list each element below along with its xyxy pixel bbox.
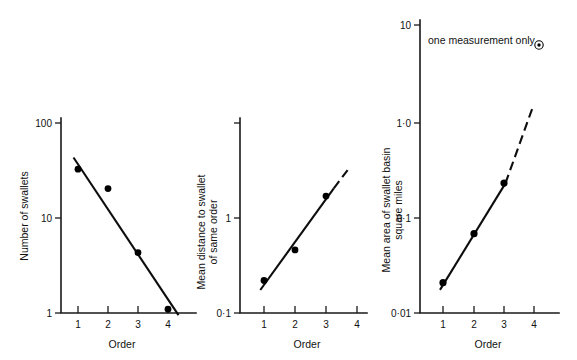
- yaxis-title: Number of swallets: [18, 171, 30, 260]
- figure-root: 100 10 1 1 2 3 4 Order Number of swallet…: [0, 0, 577, 360]
- ytick-label-10: 10: [41, 213, 53, 224]
- data-point: [105, 185, 112, 192]
- xaxis-title: Order: [294, 338, 321, 350]
- circled-dot-icon: [535, 41, 543, 49]
- data-point: [323, 193, 330, 200]
- data-point: [165, 306, 172, 313]
- xtick-label-1: 1: [75, 319, 81, 330]
- ytick-label-0-01: 0·01: [391, 308, 411, 319]
- annotation-label: one measurement only: [428, 34, 536, 46]
- chart-panel-mean-area: 10 1·0 0·1 0·01 1 2 3 4 one measurement …: [380, 0, 577, 360]
- xtick-label-2: 2: [105, 319, 111, 330]
- data-point: [470, 230, 477, 237]
- xaxis-title: Order: [475, 338, 502, 350]
- fit-line-left: [74, 158, 179, 316]
- axis-lines-right: [420, 20, 559, 313]
- ytick-label-1: 1: [46, 308, 52, 319]
- xaxis-title: Order: [109, 338, 136, 350]
- xtick-label-4: 4: [531, 319, 537, 330]
- axis-lines-left: [61, 118, 196, 313]
- xtick-label-2: 2: [471, 319, 477, 330]
- data-point: [261, 277, 268, 284]
- yaxis-title-line1: Mean area of swallet basin: [380, 147, 392, 272]
- chart-panel-number-of-swallets: 100 10 1 1 2 3 4 Order Number of swallet…: [0, 0, 200, 360]
- chart-panel-mean-distance: 1 0·1 1 2 3 4 Order Mean distance to swa…: [190, 0, 385, 360]
- xtick-label-3: 3: [323, 319, 329, 330]
- yaxis-title-line1: Mean distance to swallet: [195, 174, 207, 289]
- yaxis-title-line2: square miles: [392, 180, 404, 240]
- yaxis-title-line2: of same order: [207, 199, 219, 264]
- xtick-label-3: 3: [135, 319, 141, 330]
- panel-left-svg: 100 10 1 1 2 3 4 Order Number of swallet…: [0, 0, 200, 360]
- xtick-label-1: 1: [440, 319, 446, 330]
- xtick-label-2: 2: [292, 319, 298, 330]
- xtick-label-4: 4: [354, 319, 360, 330]
- data-point: [439, 279, 446, 286]
- fit-line-dashed-middle: [334, 168, 350, 189]
- ytick-label-1: 1: [225, 213, 231, 224]
- xtick-label-4: 4: [165, 319, 171, 330]
- ytick-label-1-0: 1·0: [397, 118, 412, 129]
- fit-line-dashed-right: [505, 108, 532, 184]
- ytick-label-10: 10: [400, 20, 412, 31]
- data-point: [75, 166, 82, 173]
- data-point: [135, 249, 142, 256]
- panel-right-svg: 10 1·0 0·1 0·01 1 2 3 4 one measurement …: [380, 0, 577, 360]
- ytick-label-100: 100: [35, 118, 52, 129]
- ytick-label-0-1: 0·1: [217, 308, 232, 319]
- axis-lines-middle: [240, 118, 367, 313]
- panel-middle-svg: 1 0·1 1 2 3 4 Order Mean distance to swa…: [190, 0, 385, 360]
- xtick-label-1: 1: [261, 319, 267, 330]
- xtick-label-3: 3: [501, 319, 507, 330]
- data-point: [500, 180, 507, 187]
- data-point: [292, 247, 299, 254]
- fit-line-middle: [260, 188, 334, 290]
